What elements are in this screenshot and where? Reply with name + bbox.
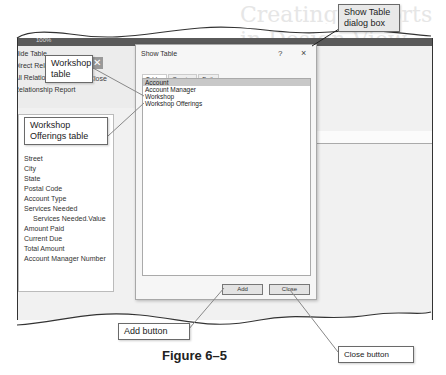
close-button-callout: Close button	[338, 346, 414, 363]
workshop-offerings-callout: Workshop Offerings table	[24, 117, 108, 145]
close-icon[interactable]: ×	[301, 48, 306, 58]
ribbon-relationship-report[interactable]: Relationship Report	[17, 86, 75, 93]
separator-band	[302, 131, 432, 144]
field-item[interactable]: Services Needed	[24, 205, 77, 212]
show-table-callout: Show Table dialog box	[338, 4, 400, 32]
dialog-title: Show Table	[141, 50, 177, 57]
field-item[interactable]: Total Amount	[24, 245, 64, 252]
tables-listbox[interactable]: Account Account Manager Workshop Worksho…	[142, 78, 311, 276]
add-button-callout: Add button	[118, 323, 190, 340]
figure-caption: Figure 6–5	[162, 348, 227, 363]
field-item[interactable]: Amount Paid	[24, 225, 64, 232]
list-item-account[interactable]: Account	[143, 79, 310, 86]
close-button[interactable]: Close	[269, 284, 310, 295]
list-item-workshop-offerings[interactable]: Workshop Offerings	[143, 100, 310, 107]
list-item-workshop[interactable]: Workshop	[143, 93, 310, 100]
field-item[interactable]: Services Needed.Value	[33, 215, 106, 222]
add-button[interactable]: Add	[222, 284, 263, 295]
field-item[interactable]: Street	[24, 155, 43, 162]
help-icon[interactable]: ?	[278, 49, 282, 58]
list-item-account-manager[interactable]: Account Manager	[143, 86, 310, 93]
show-table-dialog: Show Table ? × TablesQueriesBoth Account…	[135, 44, 317, 300]
field-item[interactable]: Account Type	[24, 195, 66, 202]
field-item[interactable]: Account Manager Number	[24, 255, 106, 262]
workshop-table-callout: Workshop table	[45, 55, 93, 83]
field-item[interactable]: State	[24, 175, 40, 182]
field-item[interactable]: City	[24, 165, 36, 172]
field-item[interactable]: Current Due	[24, 235, 62, 242]
field-item[interactable]: Postal Code	[24, 185, 62, 192]
tab-strip: TablesQueriesBoth	[142, 67, 220, 78]
